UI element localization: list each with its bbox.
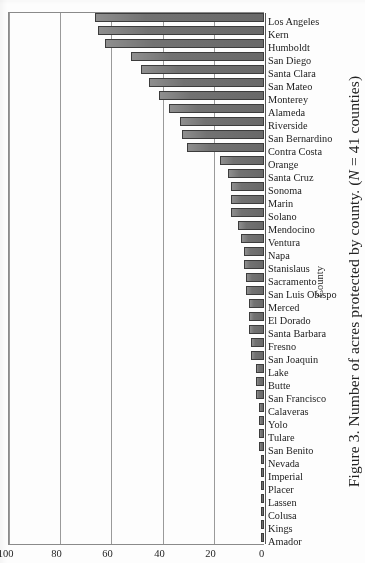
caption-suffix: = 41 counties) <box>345 76 362 170</box>
category-label-santa-cruz: Santa Cruz <box>268 172 313 183</box>
bar-ventura <box>9 234 264 243</box>
bar-santa-barbara <box>9 325 264 334</box>
category-label-tulare: Tulare <box>268 432 295 443</box>
bar-alameda <box>9 104 264 113</box>
bar-fill <box>246 286 264 295</box>
bar-fill <box>159 91 264 100</box>
bar-butte <box>9 377 264 386</box>
bar-riverside <box>9 117 264 126</box>
bar-san-diego <box>9 52 264 61</box>
figure-caption: Figure 3. Number of acres protected by c… <box>345 0 363 563</box>
category-label-lake: Lake <box>268 367 289 378</box>
bar-fill <box>259 442 264 451</box>
value-tick-60: 60 <box>99 548 117 559</box>
bar-santa-cruz <box>9 169 264 178</box>
caption-n-symbol: N <box>345 170 362 180</box>
bar-fill <box>105 39 264 48</box>
bar-fill <box>231 182 264 191</box>
value-tick-20: 20 <box>201 548 219 559</box>
gridline-0 <box>265 13 266 544</box>
caption-prefix: Figure 3. Number of acres protected by c… <box>345 180 362 487</box>
value-tick-80: 80 <box>48 548 66 559</box>
bar-imperial <box>9 468 264 477</box>
bar-san-mateo <box>9 78 264 87</box>
category-label-sacramento: Sacramento <box>268 276 317 287</box>
bar-fill <box>261 494 264 503</box>
category-label-calaveras: Calaveras <box>268 406 309 417</box>
bar-amador <box>9 533 264 542</box>
figure-page: 020406080100 AmadorKingsColusaLassenPlac… <box>0 0 365 563</box>
bar-calaveras <box>9 403 264 412</box>
bar-kern <box>9 26 264 35</box>
category-label-kern: Kern <box>268 29 289 40</box>
plot-area <box>8 12 264 545</box>
bar-lassen <box>9 494 264 503</box>
bar-tulare <box>9 429 264 438</box>
bar-fill <box>182 130 264 139</box>
category-label-nevada: Nevada <box>268 458 299 469</box>
bar-contra-costa <box>9 143 264 152</box>
bar-el-dorado <box>9 312 264 321</box>
bar-san-joaquin <box>9 351 264 360</box>
bar-fill <box>244 247 264 256</box>
bar-sacramento <box>9 273 264 282</box>
category-label-merced: Merced <box>268 302 299 313</box>
axis-title-county: County <box>314 0 325 563</box>
bar-fill <box>261 520 264 529</box>
bar-fill <box>180 117 264 126</box>
bar-fill <box>259 416 264 425</box>
bar-sonoma <box>9 182 264 191</box>
bar-fill <box>246 273 264 282</box>
bar-fill <box>98 26 264 35</box>
bar-fill <box>187 143 264 152</box>
bar-fill <box>261 455 264 464</box>
bar-fill <box>256 377 264 386</box>
category-label-lassen: Lassen <box>268 497 297 508</box>
bar-fill <box>251 338 264 347</box>
bar-colusa <box>9 507 264 516</box>
category-label-butte: Butte <box>268 380 290 391</box>
category-label-sonoma: Sonoma <box>268 185 302 196</box>
category-label-imperial: Imperial <box>268 471 303 482</box>
bar-lake <box>9 364 264 373</box>
bar-fresno <box>9 338 264 347</box>
bar-santa-clara <box>9 65 264 74</box>
category-label-san-mateo: San Mateo <box>268 81 312 92</box>
bar-fill <box>241 234 264 243</box>
bar-fill <box>220 156 264 165</box>
bar-fill <box>259 403 264 412</box>
bar-fill <box>231 208 264 217</box>
bar-fill <box>249 325 264 334</box>
category-label-humboldt: Humboldt <box>268 42 310 53</box>
bar-mendocino <box>9 221 264 230</box>
bar-fill <box>261 533 264 542</box>
figure-inner: 020406080100 AmadorKingsColusaLassenPlac… <box>0 0 365 563</box>
bar-fill <box>238 221 264 230</box>
category-label-fresno: Fresno <box>268 341 296 352</box>
value-tick-100: 100 <box>0 548 15 559</box>
category-label-orange: Orange <box>268 159 298 170</box>
bar-fill <box>249 299 264 308</box>
bar-fill <box>95 13 264 22</box>
category-label-los-angeles: Los Angeles <box>268 16 319 27</box>
category-label-marin: Marin <box>268 198 293 209</box>
bar-merced <box>9 299 264 308</box>
bar-monterey <box>9 91 264 100</box>
bar-los-angeles <box>9 13 264 22</box>
category-label-napa: Napa <box>268 250 290 261</box>
bar-fill <box>261 481 264 490</box>
bar-san-luis-obispo <box>9 286 264 295</box>
category-label-placer: Placer <box>268 484 294 495</box>
bar-san-bernardino <box>9 130 264 139</box>
bar-fill <box>141 65 264 74</box>
bar-nevada <box>9 455 264 464</box>
category-label-alameda: Alameda <box>268 107 305 118</box>
value-tick-40: 40 <box>150 548 168 559</box>
bar-placer <box>9 481 264 490</box>
bar-kings <box>9 520 264 529</box>
bar-fill <box>231 195 264 204</box>
bar-fill <box>169 104 264 113</box>
category-label-colusa: Colusa <box>268 510 297 521</box>
bar-orange <box>9 156 264 165</box>
bar-fill <box>256 390 264 399</box>
